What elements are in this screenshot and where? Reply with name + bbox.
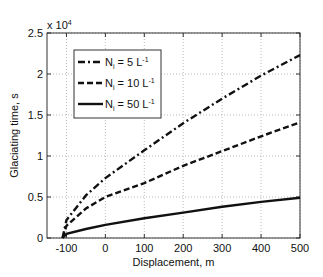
x-tick-label: -100 [55, 242, 77, 254]
y-tick-label: 2.5 [28, 27, 43, 39]
y-tick-label: 0.5 [28, 191, 43, 203]
y-multiplier: x 104 [47, 19, 72, 31]
x-tick-label: 300 [213, 242, 231, 254]
y-tick-label: 2 [37, 68, 43, 80]
legend: Ni = 5 L-1Ni = 10 L-1Ni = 50 L-1 [74, 50, 161, 118]
legend-label: Ni = 5 L-1 [105, 56, 149, 70]
x-tick-label: 0 [102, 242, 108, 254]
x-tick-label: 400 [252, 242, 270, 254]
y-axis-label: Glaciating time, s [8, 93, 20, 178]
x-tick-label: 200 [174, 242, 192, 254]
chart-figure: -100010020030040050000.511.522.5x 104Dis… [0, 0, 323, 277]
x-tick-label: 100 [135, 242, 153, 254]
y-tick-label: 0 [37, 232, 43, 244]
y-tick-label: 1.5 [28, 109, 43, 121]
x-tick-label: 500 [291, 242, 309, 254]
legend-label: Ni = 10 L-1 [105, 77, 155, 91]
x-axis-label: Displacement, m [133, 256, 215, 268]
line-chart: -100010020030040050000.511.522.5x 104Dis… [0, 0, 323, 277]
legend-label: Ni = 50 L-1 [105, 98, 155, 112]
y-tick-label: 1 [37, 150, 43, 162]
